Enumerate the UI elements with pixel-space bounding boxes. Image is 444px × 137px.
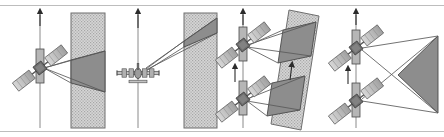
diagram-canvas <box>0 0 444 137</box>
figure-root <box>0 0 444 137</box>
